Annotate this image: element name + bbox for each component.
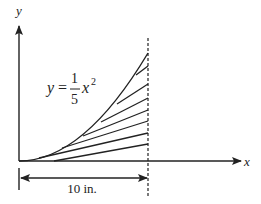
y-axis-label: y <box>14 3 22 18</box>
equation-lhs: y <box>45 79 55 97</box>
x-axis-label: x <box>243 154 250 169</box>
equation-equals: = <box>58 79 67 96</box>
equation-variable: x <box>81 79 89 96</box>
equation-label: y = 1 5 x 2 <box>45 71 96 107</box>
parabola-region-diagram: y x y = 1 5 x 2 10 in. <box>0 0 261 204</box>
equation-numerator: 1 <box>71 71 78 86</box>
dimension-label: 10 in. <box>67 181 97 196</box>
equation-exponent: 2 <box>91 76 96 87</box>
equation-denominator: 5 <box>71 92 78 107</box>
parabola-curve <box>19 53 148 161</box>
